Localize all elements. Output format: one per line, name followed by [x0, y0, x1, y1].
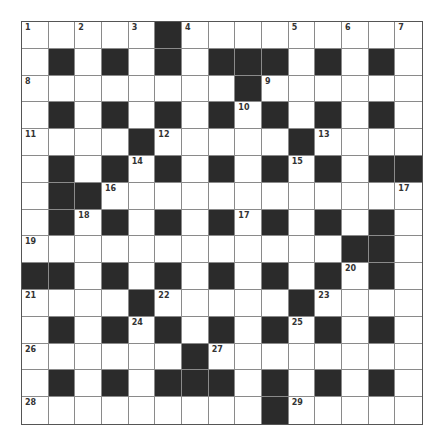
answer-cell[interactable]	[262, 22, 289, 49]
answer-cell[interactable]: 8	[22, 76, 49, 103]
answer-cell[interactable]	[102, 236, 129, 263]
answer-cell[interactable]	[395, 317, 422, 344]
answer-cell[interactable]	[102, 22, 129, 49]
answer-cell[interactable]	[262, 183, 289, 210]
answer-cell[interactable]	[342, 76, 369, 103]
answer-cell[interactable]	[182, 49, 209, 76]
answer-cell[interactable]	[289, 49, 316, 76]
answer-cell[interactable]	[22, 183, 49, 210]
answer-cell[interactable]	[395, 49, 422, 76]
answer-cell[interactable]: 4	[182, 22, 209, 49]
answer-cell[interactable]	[262, 344, 289, 371]
answer-cell[interactable]	[75, 290, 102, 317]
answer-cell[interactable]	[22, 210, 49, 237]
answer-cell[interactable]	[129, 76, 156, 103]
answer-cell[interactable]	[155, 183, 182, 210]
answer-cell[interactable]	[22, 102, 49, 129]
answer-cell[interactable]	[209, 236, 236, 263]
answer-cell[interactable]	[22, 317, 49, 344]
answer-cell[interactable]: 6	[342, 22, 369, 49]
answer-cell[interactable]	[129, 236, 156, 263]
answer-cell[interactable]	[155, 236, 182, 263]
answer-cell[interactable]	[289, 76, 316, 103]
answer-cell[interactable]	[75, 397, 102, 424]
answer-cell[interactable]: 14	[129, 156, 156, 183]
answer-cell[interactable]	[235, 183, 262, 210]
answer-cell[interactable]: 21	[22, 290, 49, 317]
answer-cell[interactable]	[155, 344, 182, 371]
answer-cell[interactable]	[129, 210, 156, 237]
answer-cell[interactable]	[129, 344, 156, 371]
answer-cell[interactable]	[369, 397, 396, 424]
answer-cell[interactable]	[49, 129, 76, 156]
answer-cell[interactable]: 3	[129, 22, 156, 49]
answer-cell[interactable]	[235, 370, 262, 397]
answer-cell[interactable]	[235, 156, 262, 183]
answer-cell[interactable]: 15	[289, 156, 316, 183]
answer-cell[interactable]: 23	[315, 290, 342, 317]
answer-cell[interactable]	[395, 344, 422, 371]
answer-cell[interactable]	[102, 76, 129, 103]
answer-cell[interactable]	[342, 156, 369, 183]
answer-cell[interactable]	[49, 290, 76, 317]
answer-cell[interactable]	[395, 76, 422, 103]
answer-cell[interactable]	[155, 76, 182, 103]
answer-cell[interactable]: 17	[235, 210, 262, 237]
answer-cell[interactable]	[235, 129, 262, 156]
answer-cell[interactable]	[75, 344, 102, 371]
answer-cell[interactable]	[369, 22, 396, 49]
answer-cell[interactable]	[342, 317, 369, 344]
answer-cell[interactable]: 26	[22, 344, 49, 371]
answer-cell[interactable]	[342, 129, 369, 156]
answer-cell[interactable]	[129, 49, 156, 76]
answer-cell[interactable]	[22, 370, 49, 397]
answer-cell[interactable]	[235, 344, 262, 371]
answer-cell[interactable]	[315, 344, 342, 371]
answer-cell[interactable]: 24	[129, 317, 156, 344]
answer-cell[interactable]: 9	[262, 76, 289, 103]
answer-cell[interactable]: 7	[395, 22, 422, 49]
answer-cell[interactable]	[315, 76, 342, 103]
answer-cell[interactable]	[395, 397, 422, 424]
answer-cell[interactable]	[395, 263, 422, 290]
answer-cell[interactable]	[209, 22, 236, 49]
answer-cell[interactable]	[102, 290, 129, 317]
answer-cell[interactable]	[289, 102, 316, 129]
answer-cell[interactable]	[75, 317, 102, 344]
answer-cell[interactable]	[129, 102, 156, 129]
answer-cell[interactable]	[49, 236, 76, 263]
answer-cell[interactable]	[182, 76, 209, 103]
answer-cell[interactable]	[75, 102, 102, 129]
answer-cell[interactable]	[289, 210, 316, 237]
answer-cell[interactable]	[209, 76, 236, 103]
answer-cell[interactable]	[155, 397, 182, 424]
answer-cell[interactable]: 22	[155, 290, 182, 317]
answer-cell[interactable]	[209, 397, 236, 424]
answer-cell[interactable]	[289, 263, 316, 290]
answer-cell[interactable]	[395, 236, 422, 263]
answer-cell[interactable]	[129, 263, 156, 290]
answer-cell[interactable]: 2	[75, 22, 102, 49]
answer-cell[interactable]	[182, 129, 209, 156]
answer-cell[interactable]	[289, 236, 316, 263]
answer-cell[interactable]	[102, 344, 129, 371]
answer-cell[interactable]	[395, 129, 422, 156]
answer-cell[interactable]	[182, 263, 209, 290]
answer-cell[interactable]	[369, 129, 396, 156]
answer-cell[interactable]	[369, 290, 396, 317]
answer-cell[interactable]	[262, 129, 289, 156]
answer-cell[interactable]: 10	[235, 102, 262, 129]
answer-cell[interactable]	[289, 183, 316, 210]
answer-cell[interactable]: 28	[22, 397, 49, 424]
answer-cell[interactable]	[342, 397, 369, 424]
answer-cell[interactable]	[182, 290, 209, 317]
answer-cell[interactable]: 12	[155, 129, 182, 156]
answer-cell[interactable]	[75, 76, 102, 103]
answer-cell[interactable]	[182, 102, 209, 129]
answer-cell[interactable]	[315, 22, 342, 49]
answer-cell[interactable]	[75, 156, 102, 183]
answer-cell[interactable]	[315, 397, 342, 424]
answer-cell[interactable]	[342, 344, 369, 371]
answer-cell[interactable]	[395, 210, 422, 237]
answer-cell[interactable]	[289, 344, 316, 371]
